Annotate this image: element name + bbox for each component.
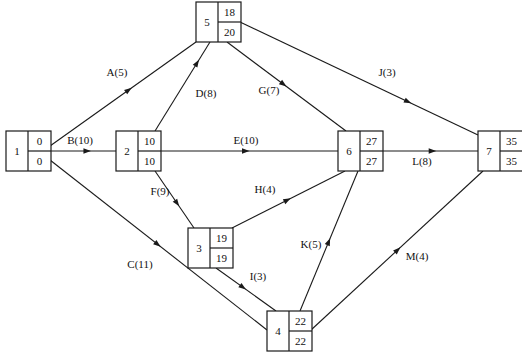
node-late-time-2: 10 bbox=[144, 155, 156, 167]
node-late-time-3: 19 bbox=[216, 252, 228, 264]
edge-arrowhead-e bbox=[242, 148, 250, 153]
node-late-time-1: 0 bbox=[37, 155, 43, 167]
edge-label-j: J(3) bbox=[378, 66, 395, 79]
edge-line-f bbox=[155, 171, 194, 228]
node-2[interactable]: 21010 bbox=[116, 131, 161, 171]
edge-label-k: K(5) bbox=[301, 238, 322, 251]
edge-label-l: L(8) bbox=[412, 155, 432, 168]
edge-labels-layer: A(5)B(10)C(11)D(8)E(10)F(9)G(7)H(4)I(3)J… bbox=[67, 66, 432, 283]
edge-arrowhead-h bbox=[283, 196, 292, 204]
edge-line-a bbox=[50, 42, 196, 146]
node-4[interactable]: 42222 bbox=[267, 311, 312, 351]
edge-label-g: G(7) bbox=[259, 84, 280, 97]
edge-h bbox=[232, 171, 345, 228]
node-id-label-3: 3 bbox=[196, 242, 202, 254]
node-early-time-4: 22 bbox=[295, 315, 306, 327]
node-3[interactable]: 31919 bbox=[188, 228, 233, 268]
node-late-time-6: 27 bbox=[366, 155, 378, 167]
network-diagram-canvas: 100210103191942222518206272773535 A(5)B(… bbox=[0, 0, 522, 355]
edge-l bbox=[383, 148, 478, 153]
node-7[interactable]: 73535 bbox=[478, 131, 522, 171]
edge-e bbox=[161, 148, 338, 153]
node-id-label-2: 2 bbox=[124, 145, 130, 157]
node-id-label-7: 7 bbox=[486, 145, 492, 157]
node-late-time-4: 22 bbox=[295, 335, 306, 347]
node-early-time-1: 0 bbox=[37, 135, 43, 147]
node-early-time-7: 35 bbox=[506, 135, 518, 147]
edge-m bbox=[311, 171, 483, 330]
edge-label-m: M(4) bbox=[406, 250, 429, 263]
edge-label-i: I(3) bbox=[250, 270, 267, 283]
edge-arrowhead-f bbox=[173, 199, 182, 208]
node-id-label-5: 5 bbox=[204, 16, 210, 28]
edge-label-h: H(4) bbox=[255, 183, 276, 196]
edge-label-b: B(10) bbox=[67, 134, 93, 147]
edge-g bbox=[227, 42, 346, 131]
edge-arrowhead-j bbox=[403, 98, 412, 106]
edge-arrowhead-a bbox=[124, 86, 133, 95]
edge-arrowhead-l bbox=[429, 148, 437, 153]
nodes-layer: 100210103191942222518206272773535 bbox=[6, 2, 522, 351]
edge-label-a: A(5) bbox=[107, 66, 128, 79]
edge-arrowhead-b bbox=[83, 148, 91, 153]
edge-i bbox=[216, 268, 276, 311]
edge-a bbox=[50, 42, 196, 146]
network-diagram: 100210103191942222518206272773535 A(5)B(… bbox=[0, 0, 522, 355]
edge-label-d: D(8) bbox=[196, 87, 217, 100]
node-id-label-6: 6 bbox=[346, 145, 352, 157]
edge-b bbox=[50, 148, 116, 153]
edge-label-f: F(9) bbox=[151, 185, 170, 198]
node-id-label-1: 1 bbox=[14, 145, 20, 157]
edge-label-e: E(10) bbox=[233, 134, 258, 147]
node-early-time-2: 10 bbox=[144, 135, 156, 147]
edge-arrowhead-i bbox=[238, 283, 247, 292]
node-late-time-5: 20 bbox=[224, 26, 236, 38]
edge-arrowhead-d bbox=[193, 58, 202, 67]
node-early-time-6: 27 bbox=[366, 135, 378, 147]
node-early-time-5: 18 bbox=[224, 6, 236, 18]
node-id-label-4: 4 bbox=[275, 325, 281, 337]
edge-label-c: C(11) bbox=[127, 258, 153, 271]
edge-f bbox=[155, 171, 194, 228]
node-early-time-3: 19 bbox=[216, 232, 228, 244]
node-5[interactable]: 51820 bbox=[196, 2, 241, 42]
edge-arrowhead-k bbox=[325, 237, 333, 246]
node-6[interactable]: 62727 bbox=[338, 131, 383, 171]
node-late-time-7: 35 bbox=[506, 155, 518, 167]
node-1[interactable]: 100 bbox=[6, 131, 51, 171]
